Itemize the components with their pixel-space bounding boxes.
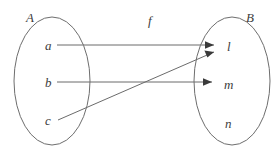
diagram-canvas [0, 0, 279, 154]
arrowhead-c-to-l [204, 51, 214, 58]
element-n-label: n [225, 117, 232, 130]
element-a-label: a [45, 39, 52, 52]
function-label: f [148, 14, 152, 27]
set-b-label: B [246, 11, 254, 24]
arrowhead-a-to-l [205, 41, 214, 48]
mapping-arrow-c-to-l [58, 51, 214, 120]
set-a-label: A [26, 11, 34, 24]
set-a-ellipse [14, 17, 90, 145]
mapping-line-c-to-l [58, 52, 214, 120]
element-l-label: l [227, 40, 231, 53]
element-m-label: m [224, 78, 233, 91]
arrowhead-b-to-m [203, 78, 212, 85]
function-mapping-diagram: A B f a b c l m n [0, 0, 279, 154]
element-c-label: c [45, 114, 51, 127]
element-b-label: b [45, 76, 52, 89]
mapping-arrow-a-to-l [57, 41, 214, 48]
mapping-arrow-b-to-m [57, 78, 212, 85]
